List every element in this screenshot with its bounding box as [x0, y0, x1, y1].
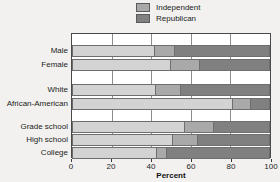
bar-segment-independent	[155, 45, 175, 57]
bar-segment-independent	[233, 98, 251, 110]
bar-segment-independent	[156, 84, 181, 96]
bar-row	[72, 121, 270, 133]
y-label-grade-school: Grade school	[0, 122, 68, 131]
bar-segment-democrat	[72, 45, 155, 57]
bar-segment-democrat	[72, 98, 233, 110]
y-label-male: Male	[0, 46, 68, 55]
bar-segment-republican	[200, 59, 270, 71]
legend-label-independent: Independent	[156, 3, 201, 12]
y-axis-labels: Male Female White African-American Grade…	[0, 33, 68, 158]
x-tick-label-80: 80	[227, 162, 236, 171]
x-axis-title: Percent	[71, 171, 271, 180]
bar-segment-democrat	[72, 59, 171, 71]
bar-segment-republican	[214, 121, 270, 133]
bar-row	[72, 98, 270, 110]
bar-segment-democrat	[72, 134, 173, 146]
chart-legend: Independent Republican	[136, 2, 256, 24]
bar-row	[72, 84, 270, 96]
bar-segment-independent	[185, 121, 214, 133]
legend-item-independent: Independent	[136, 2, 256, 12]
y-label-high-school: High school	[0, 135, 68, 144]
bar-row	[72, 134, 270, 146]
legend-swatch-independent	[136, 3, 150, 12]
bar-row	[72, 59, 270, 71]
x-tick-label-100: 100	[264, 162, 277, 171]
bar-segment-republican	[198, 134, 270, 146]
bar-segment-republican	[175, 45, 270, 57]
plot-area	[71, 33, 271, 158]
bar-segment-independent	[173, 134, 198, 146]
bar-segment-republican	[167, 147, 270, 159]
x-tick-label-20: 20	[107, 162, 116, 171]
x-tick-label-0: 0	[69, 162, 73, 171]
bar-segment-democrat	[72, 147, 157, 159]
y-label-female: Female	[0, 60, 68, 69]
bar-segment-independent	[171, 59, 200, 71]
bar-row	[72, 45, 270, 57]
x-tick-label-60: 60	[187, 162, 196, 171]
x-axis-ticks: 020406080100	[71, 159, 271, 171]
bar-segment-republican	[181, 84, 270, 96]
y-label-white: White	[0, 85, 68, 94]
bar-segment-democrat	[72, 84, 156, 96]
bar-segment-republican	[251, 98, 270, 110]
legend-item-republican: Republican	[136, 13, 256, 23]
bar-row	[72, 147, 270, 159]
legend-swatch-republican	[136, 14, 150, 23]
bar-segment-independent	[157, 147, 167, 159]
x-tick-label-40: 40	[147, 162, 156, 171]
plot-inner	[72, 34, 270, 157]
y-label-college: College	[0, 148, 68, 157]
y-label-african-american: African-American	[0, 99, 68, 108]
bar-segment-democrat	[72, 121, 185, 133]
legend-label-republican: Republican	[156, 14, 196, 23]
